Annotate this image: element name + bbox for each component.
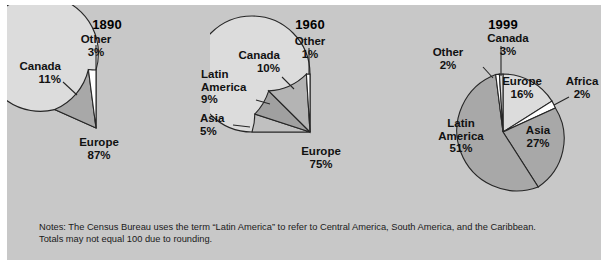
chart-1890: 1890 Other3% Canada11% Europe87%: [7, 5, 207, 215]
label-latin-america: LatinAmerica9%: [201, 68, 259, 106]
figure-notes: Notes: The Census Bureau uses the term “…: [39, 221, 584, 245]
chart-1999: 1999 Canada3%: [403, 5, 603, 215]
notes-line-2: Totals may not equal 100 due to rounding…: [39, 233, 584, 245]
label-latin-america: LatinAmerica51%: [425, 117, 497, 155]
label-other: Other2%: [420, 46, 476, 71]
label-other: Other3%: [60, 33, 132, 58]
label-asia: Asia5%: [200, 112, 240, 137]
label-europe: Europe16%: [491, 75, 553, 100]
label-europe: Europe87%: [64, 136, 134, 161]
label-canada: Canada11%: [4, 60, 61, 85]
label-asia: Asia27%: [511, 124, 565, 149]
figure-panel: 1890 Other3% Canada11% Europe87%: [7, 5, 601, 260]
label-other: Other1%: [278, 35, 342, 60]
chart-1960: 1960 Other1%: [210, 5, 410, 215]
notes-line-1: Notes: The Census Bureau uses the term “…: [39, 221, 584, 233]
label-europe: Europe75%: [286, 145, 356, 170]
label-africa: Africa2%: [558, 75, 606, 100]
label-canada: Canada3%: [473, 32, 543, 57]
pie-chart-figure: 1890 Other3% Canada11% Europe87%: [0, 0, 608, 267]
